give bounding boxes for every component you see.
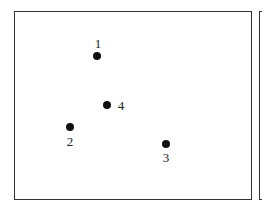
point-2-label: 2: [67, 135, 74, 148]
point-1-marker: [93, 52, 101, 60]
point-1-label: 1: [95, 37, 102, 50]
point-3-marker: [162, 140, 170, 148]
point-2-marker: [66, 123, 74, 131]
point-4-label: 4: [118, 99, 125, 112]
point-4-marker: [103, 101, 111, 109]
main-frame: [14, 11, 252, 200]
point-3-label: 3: [163, 151, 170, 164]
partial-frame-right: [259, 11, 262, 200]
